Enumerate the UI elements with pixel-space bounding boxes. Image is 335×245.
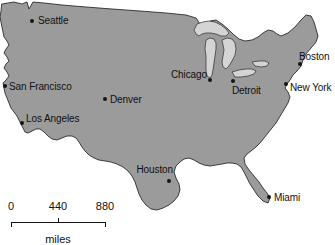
scale-bar-graphic <box>11 218 105 227</box>
city-label-los-angeles: Los Angeles <box>26 113 79 124</box>
city-dot-detroit[interactable] <box>231 79 235 83</box>
city-dot-chicago[interactable] <box>208 78 212 82</box>
scale-tick-label-880: 880 <box>96 200 114 212</box>
city-dot-miami[interactable] <box>267 195 271 199</box>
city-dot-houston[interactable] <box>167 179 171 183</box>
scale-units-label: miles <box>45 233 71 245</box>
landmass-group <box>0 2 318 210</box>
scale-tick-label-0: 0 <box>8 200 14 212</box>
city-label-houston: Houston <box>136 164 173 175</box>
city-label-san-francisco: San Francisco <box>9 81 72 92</box>
city-label-new-york: New York <box>290 82 331 93</box>
city-label-chicago: Chicago <box>171 69 207 80</box>
city-dot-denver[interactable] <box>103 97 107 101</box>
city-dot-los-angeles[interactable] <box>20 121 24 125</box>
city-dot-seattle[interactable] <box>30 19 34 23</box>
city-label-boston: Boston <box>299 51 330 62</box>
city-dot-new-york[interactable] <box>284 82 288 86</box>
city-dot-san-francisco[interactable] <box>3 84 7 88</box>
city-label-seattle: Seattle <box>38 15 68 26</box>
scale-tick-label-440: 440 <box>49 200 67 212</box>
city-label-detroit: Detroit <box>232 85 261 96</box>
city-label-miami: Miami <box>274 192 300 203</box>
us-landmass-path <box>0 2 318 210</box>
city-label-denver: Denver <box>110 94 142 105</box>
city-dot-boston[interactable] <box>298 62 302 66</box>
us-reference-map: SeattleSan FranciscoLos AngelesDenverChi… <box>0 0 335 245</box>
